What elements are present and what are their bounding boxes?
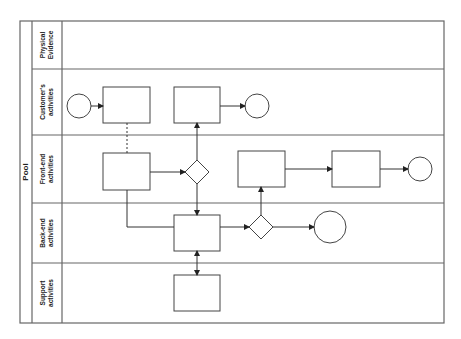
lane-label-line1: Back-end <box>39 218 46 247</box>
customer-task-2 <box>174 87 220 123</box>
flow-fe1-to-backend <box>127 190 174 227</box>
swimlane-diagram: Pool Physical Evidence Customer's activi… <box>0 0 461 339</box>
lane-header-physical: Physical Evidence <box>39 30 54 59</box>
lane-header-customer: Customer's activities <box>39 84 54 120</box>
lane-label-line2: activities <box>47 219 54 247</box>
frontend-task-1 <box>103 153 150 190</box>
start-event <box>67 94 91 118</box>
backend-end-event <box>314 211 346 243</box>
customer-task-1 <box>103 87 150 123</box>
lane-header-support: Support activities <box>39 279 54 307</box>
lane-label-line1: Support <box>39 280 47 306</box>
lane-label-line2: Evidence <box>47 30 54 59</box>
lane-label-line2: activities <box>47 279 54 307</box>
pool-label: Pool <box>21 163 30 180</box>
lane-header-backend: Back-end activities <box>39 218 54 247</box>
frontend-task-3 <box>332 151 380 187</box>
lane-label-line1: Customer's <box>39 84 46 120</box>
lane-header-frontend: Front-end activities <box>39 154 54 184</box>
lane-label-line2: activities <box>47 155 54 183</box>
backend-task <box>174 215 220 251</box>
support-task <box>174 275 220 311</box>
frontend-end-event <box>408 157 432 181</box>
lane-label-line1: Physical <box>39 32 47 59</box>
lane-label-line2: activities <box>47 88 54 116</box>
backend-gateway <box>249 215 273 239</box>
customer-end-event <box>245 94 269 118</box>
frontend-gateway <box>185 160 209 184</box>
lane-label-line1: Front-end <box>39 154 46 184</box>
frontend-task-2 <box>238 151 285 187</box>
